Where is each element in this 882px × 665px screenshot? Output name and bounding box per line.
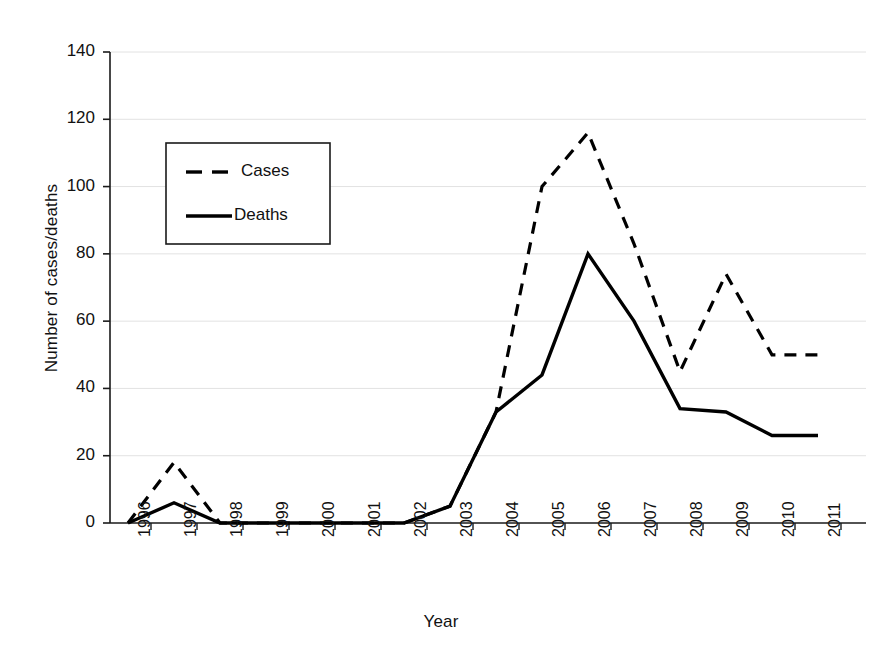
x-tick-label: 2011 <box>826 503 844 537</box>
axis-lines-group <box>110 52 866 523</box>
y-tick-label: 80 <box>51 243 95 263</box>
x-tick-label: 1996 <box>136 501 154 537</box>
legend-box <box>166 143 330 244</box>
y-tick-label: 100 <box>51 176 95 196</box>
chart-plot-area <box>0 0 882 665</box>
x-tick-label: 2005 <box>550 501 568 537</box>
x-axis-title: Year <box>0 612 882 632</box>
y-tick-label: 60 <box>51 310 95 330</box>
x-tick-label: 2010 <box>780 501 798 537</box>
x-tick-label: 1997 <box>182 501 200 537</box>
x-tick-label: 2003 <box>458 501 476 537</box>
x-tick-label: 2004 <box>504 501 522 537</box>
chart-figure: Number of cases/deaths Year 020406080100… <box>0 0 882 665</box>
y-tick-label: 40 <box>51 377 95 397</box>
y-tick-label: 120 <box>51 108 95 128</box>
legend-frame <box>166 143 330 244</box>
x-tick-label: 2006 <box>596 501 614 537</box>
y-tick-marks-group <box>103 52 110 523</box>
legend-label-cases: Cases <box>241 161 289 181</box>
y-tick-label: 0 <box>51 512 95 532</box>
x-tick-label: 2002 <box>412 501 430 537</box>
y-tick-label: 140 <box>51 41 95 61</box>
x-tick-label: 2008 <box>688 501 706 537</box>
y-tick-label: 20 <box>51 445 95 465</box>
x-tick-label: 2009 <box>734 501 752 537</box>
x-tick-label: 1998 <box>228 501 246 537</box>
legend-label-deaths: Deaths <box>234 205 288 225</box>
x-tick-label: 1999 <box>274 501 292 537</box>
x-tick-label: 2007 <box>642 501 660 537</box>
x-tick-label: 2000 <box>320 501 338 537</box>
gridlines-group <box>110 52 866 456</box>
x-tick-label: 2001 <box>366 501 384 537</box>
